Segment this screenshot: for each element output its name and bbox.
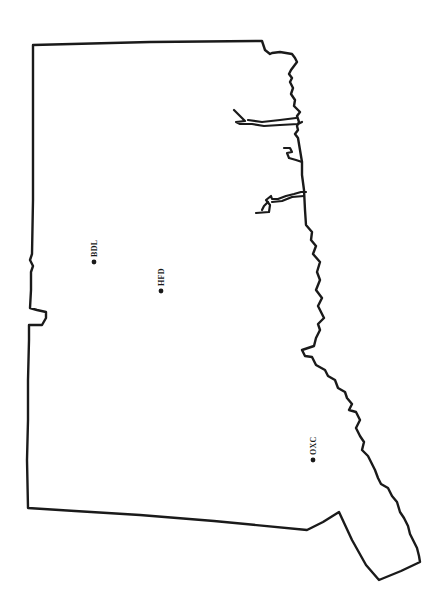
station-label: HFD bbox=[157, 268, 166, 286]
station-dot-icon bbox=[159, 289, 164, 294]
station-dot-icon bbox=[92, 260, 97, 265]
station-label: OXC bbox=[309, 436, 318, 455]
map-canvas: BDL HFD OXC bbox=[0, 0, 445, 610]
station-label: BDL bbox=[90, 240, 99, 257]
state-boundary bbox=[27, 41, 420, 580]
station-hfd[interactable]: HFD bbox=[157, 268, 166, 293]
station-dot-icon bbox=[311, 458, 316, 463]
river-inlet-upper-bank bbox=[248, 118, 296, 122]
station-bdl[interactable]: BDL bbox=[90, 240, 99, 265]
station-oxc[interactable]: OXC bbox=[309, 436, 318, 462]
river-inlet-lower bbox=[256, 192, 306, 213]
